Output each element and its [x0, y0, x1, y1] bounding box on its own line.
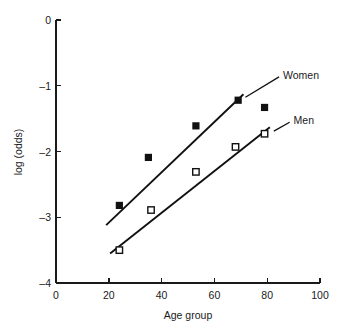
data-point-men: [193, 169, 199, 175]
x-tick-label: 40: [156, 290, 168, 301]
y-tick-label: –4: [39, 278, 51, 289]
x-tick-label: 80: [261, 290, 273, 301]
chart-container: Age group log (odds) 0–1–2–3–40204060801…: [0, 0, 344, 330]
data-point-women: [261, 104, 268, 111]
x-tick-label: 0: [53, 290, 59, 301]
chart-trendlines: [106, 94, 270, 253]
data-point-men: [232, 144, 238, 150]
leader-line-men: [274, 122, 290, 131]
y-tick-label: –2: [39, 146, 51, 157]
x-tick-label: 60: [209, 290, 221, 301]
series-label-men: Men: [294, 114, 314, 126]
y-tick-label: –3: [39, 212, 51, 223]
x-axis-title: Age group: [164, 309, 212, 321]
data-point-women: [192, 122, 199, 129]
data-point-women: [145, 154, 152, 161]
x-tick-label: 20: [103, 290, 115, 301]
chart-axes: [56, 20, 320, 283]
y-axis-title: log (odds): [12, 128, 24, 175]
data-point-women: [116, 202, 123, 209]
series-label-women: Women: [283, 69, 319, 81]
data-point-men: [148, 207, 154, 213]
data-point-men: [116, 247, 122, 253]
chart-tick-marks: [56, 20, 320, 283]
data-point-women: [235, 97, 242, 104]
chart-plot-area: [0, 0, 344, 330]
y-tick-label: –1: [39, 81, 51, 92]
trendline-women: [106, 94, 243, 225]
leader-line-women: [245, 77, 279, 97]
y-tick-label: 0: [45, 15, 51, 26]
x-tick-label: 100: [311, 290, 329, 301]
data-point-men: [261, 131, 267, 137]
